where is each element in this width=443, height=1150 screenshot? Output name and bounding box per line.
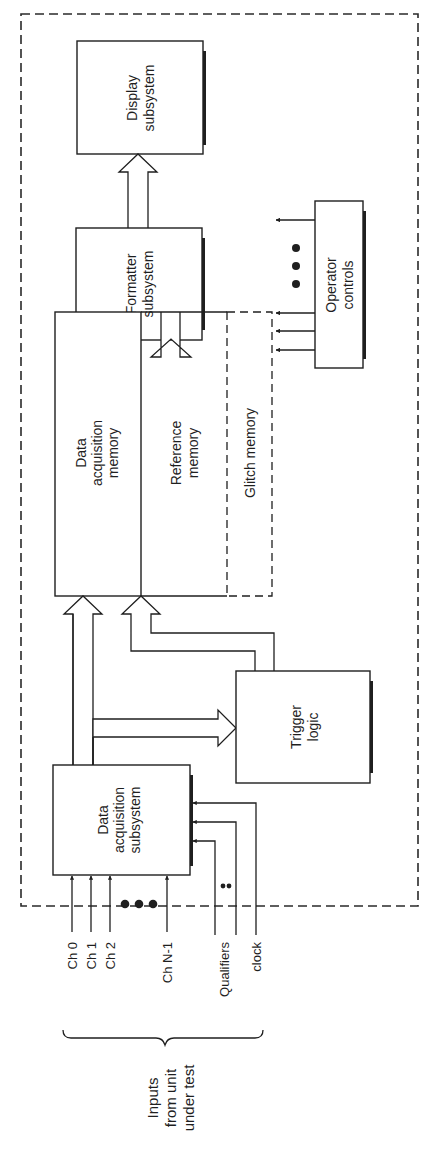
- operator-label-1: Operator: [323, 257, 339, 313]
- channel-ellipsis-icon: [121, 900, 158, 909]
- display-subsystem-block: Display subsystem: [77, 41, 206, 154]
- input-label-ch0: Ch 0: [65, 942, 80, 969]
- display-label-2: subsystem: [141, 65, 157, 132]
- ref-memory-label-1: Reference: [168, 420, 184, 485]
- ref-memory-label-2: memory: [185, 428, 201, 479]
- display-label-1: Display: [124, 75, 140, 121]
- glitch-memory-label: Glitch memory: [242, 408, 258, 498]
- inputs-group-label-2: from unit: [162, 1068, 179, 1127]
- qualifier-dots-icon: [221, 884, 226, 889]
- ellipsis-dots-icon: [292, 244, 300, 288]
- bus-formatter-to-display: [119, 154, 157, 228]
- operator-label-2: controls: [340, 260, 356, 309]
- trigger-label-1: Trigger: [288, 705, 304, 749]
- input-label-qualifiers: Qualifiers: [217, 942, 232, 997]
- operator-controls-block: Operator controls: [276, 201, 366, 368]
- qualifier-clock-lines: [193, 803, 256, 935]
- trigger-label-2: logic: [305, 713, 321, 742]
- acq-memory-label-3: memory: [105, 428, 121, 479]
- acq-memory-label-2: acquisition: [89, 420, 105, 486]
- acq-subsystem-label-2: acquisition: [111, 787, 127, 853]
- formatter-label-2: subsystem: [140, 251, 156, 318]
- acq-subsystem-block: Data acquisition subsystem: [53, 765, 193, 875]
- bus-trigger-to-ref-memory: [122, 596, 274, 671]
- inputs-group-label-1: Inputs: [144, 1078, 161, 1119]
- formatter-label-1: Formatter: [123, 253, 139, 314]
- inputs-brace: [63, 1030, 263, 1045]
- channel-input-arrows: [72, 876, 167, 932]
- input-label-clock: clock: [249, 942, 264, 972]
- acq-subsystem-label-3: subsystem: [127, 787, 143, 854]
- acq-memory-label-1: Data: [73, 438, 89, 468]
- input-label-chn1: Ch N-1: [160, 942, 175, 983]
- input-label-ch1: Ch 1: [84, 942, 99, 969]
- inputs-group-label-3: under test: [180, 1064, 197, 1132]
- input-label-ch2: Ch 2: [103, 942, 118, 969]
- memory-block: Data acquisition memory Reference memory…: [55, 312, 272, 596]
- block-diagram: Display subsystem Formatter subsystem Op…: [0, 0, 443, 1150]
- trigger-logic-block: Trigger logic: [236, 671, 373, 783]
- acq-subsystem-label-1: Data: [95, 805, 111, 835]
- bus-acq-subsystem-to-trigger: [93, 710, 236, 765]
